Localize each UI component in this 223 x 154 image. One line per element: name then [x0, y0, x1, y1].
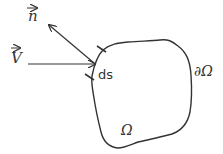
normal-vector-label: n: [28, 9, 38, 24]
normal-vector-arrow: [49, 25, 94, 63]
domain-label: Ω: [121, 123, 133, 137]
velocity-vector-label: V: [11, 51, 22, 66]
boundary-label: ∂Ω: [194, 64, 213, 78]
control-volume-diagram: n V ds ∂Ω Ω: [0, 0, 223, 154]
surface-element-label: ds: [98, 68, 113, 81]
domain-boundary-curve: [92, 40, 192, 148]
